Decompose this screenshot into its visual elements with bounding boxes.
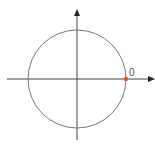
point-label: 0 [129,68,135,78]
point-marker [124,77,128,81]
x-axis-arrow-icon [148,76,155,82]
y-axis-arrow-icon [74,9,80,16]
y-axis [74,9,80,140]
